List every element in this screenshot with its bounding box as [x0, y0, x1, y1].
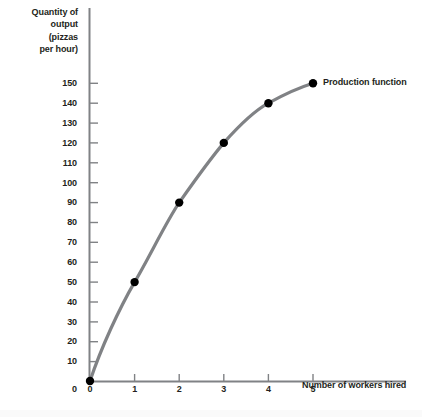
- x-tick-label-1: 1: [125, 384, 145, 394]
- y-tick-label-140: 140: [47, 98, 77, 108]
- y-tick-label-70: 70: [47, 237, 77, 247]
- production-function-chart: Quantity of output (pizzas per hour) Num…: [0, 0, 422, 417]
- chart-canvas: [0, 0, 422, 417]
- y-tick-label-110: 110: [47, 158, 77, 168]
- y-tick-label-30: 30: [47, 317, 77, 327]
- x-tick-label-5: 5: [303, 384, 323, 394]
- x-tick-label-3: 3: [214, 384, 234, 394]
- x-tick-label-4: 4: [258, 384, 278, 394]
- y-tick-label-10: 10: [47, 356, 77, 366]
- data-point-4: [264, 99, 272, 107]
- data-point-1: [130, 278, 138, 286]
- data-point-5: [309, 79, 317, 87]
- x-tick-label-2: 2: [169, 384, 189, 394]
- y-tick-label-50: 50: [47, 277, 77, 287]
- y-tick-label-20: 20: [47, 336, 77, 346]
- y-axis-ticks: [90, 83, 98, 361]
- bottom-edge-band: [0, 410, 422, 417]
- data-point-3: [220, 139, 228, 147]
- curve-path: [90, 83, 313, 381]
- y-tick-label-80: 80: [47, 217, 77, 227]
- y-tick-label-40: 40: [47, 297, 77, 307]
- y-tick-label-90: 90: [47, 197, 77, 207]
- x-tick-label-0: 0: [80, 384, 100, 394]
- y-tick-label-60: 60: [47, 257, 77, 267]
- y-tick-label-120: 120: [47, 138, 77, 148]
- x-axis-ticks: [135, 374, 313, 381]
- data-points: [86, 79, 317, 385]
- production-function-curve: [90, 83, 313, 381]
- axes-group: [89, 8, 406, 382]
- data-point-2: [175, 198, 183, 206]
- y-tick-label-150: 150: [47, 78, 77, 88]
- series-annotation-production-function: Production function: [323, 77, 407, 87]
- y-tick-label-130: 130: [47, 118, 77, 128]
- y-tick-label-100: 100: [47, 178, 77, 188]
- y-tick-label-0: 0: [47, 384, 77, 394]
- y-axis-label: Quantity of output (pizzas per hour): [2, 6, 78, 56]
